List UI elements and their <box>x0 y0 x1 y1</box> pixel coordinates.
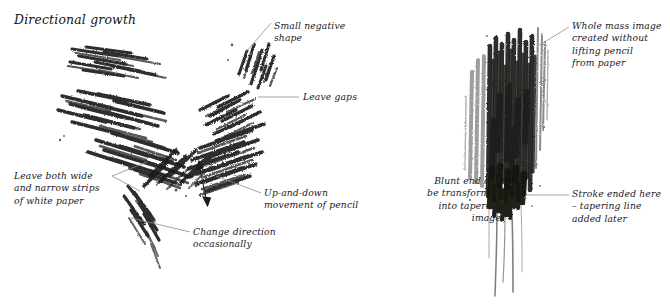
annotation-line: be transformed <box>427 187 501 198</box>
annotation-line: Leave gaps <box>303 91 357 102</box>
annotation-line: created without <box>572 32 648 43</box>
annotation-line: lifting pencil <box>572 45 633 56</box>
annotation-line: occasionally <box>193 238 252 249</box>
annotation-line: shape <box>274 32 302 43</box>
annotation-line: and narrow strips <box>14 182 100 193</box>
annotation-leave-gaps: Leave gaps <box>303 91 357 103</box>
figure-right-vertical-mass <box>465 28 548 296</box>
annotation-line: from paper <box>572 57 626 68</box>
annotation-up-and-down-movement: Up-and-downmovement of pencil <box>264 187 358 212</box>
annotation-line: of white paper <box>14 195 84 206</box>
annotation-line: Stroke ended here <box>572 188 661 199</box>
annotation-line: added later <box>572 213 627 224</box>
annotation-line: movement of pencil <box>264 199 358 210</box>
diagram-page: Directional growth Small negativeshape L… <box>0 0 670 305</box>
annotation-whole-mass-image: Whole mass imagecreated withoutlifting p… <box>572 20 662 70</box>
pencil-artwork <box>0 0 670 305</box>
annotation-line: Blunt end can <box>434 175 501 186</box>
annotation-line: Small negative <box>274 20 345 31</box>
annotation-blunt-end-tapering: Blunt end canbe transformedinto tapering… <box>397 175 501 225</box>
annotation-leave-wide-and-narrow-strips: Leave both wideand narrow stripsof white… <box>14 170 100 207</box>
annotation-line: Leave both wide <box>14 170 93 181</box>
annotation-line: – tapering line <box>572 200 642 211</box>
annotation-line: Whole mass image <box>572 20 662 31</box>
leader-leave-strips-b <box>112 176 140 191</box>
page-title: Directional growth <box>14 12 136 27</box>
annotation-stroke-ended-here: Stroke ended here– tapering lineadded la… <box>572 188 661 225</box>
annotation-line: Change direction <box>193 226 276 237</box>
annotation-small-negative-shape: Small negativeshape <box>274 20 345 45</box>
annotation-line: image <box>472 212 501 223</box>
annotation-change-direction: Change directionoccasionally <box>193 226 276 251</box>
annotation-line: Up-and-down <box>264 187 328 198</box>
annotation-line: into tapering <box>438 200 501 211</box>
